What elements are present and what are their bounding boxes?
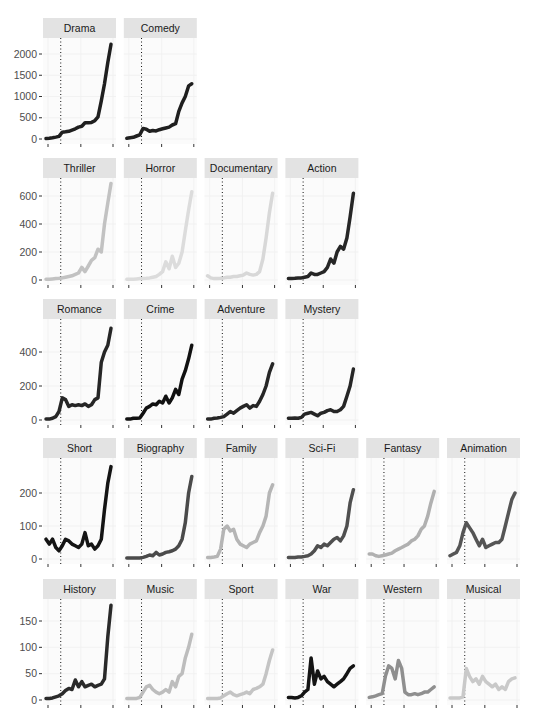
facet-strip-label: Animation bbox=[460, 442, 507, 454]
panel-background bbox=[285, 599, 358, 705]
facet-strip-label: Mystery bbox=[304, 303, 342, 315]
y-tick-0: 0 bbox=[31, 133, 42, 145]
facet-strip-label: Adventure bbox=[217, 303, 265, 315]
y-tick-label: 1500 bbox=[14, 69, 38, 81]
panel-background bbox=[285, 319, 358, 425]
facet-panel-fantasy: Fantasy bbox=[366, 438, 439, 567]
facet-strip-label: Western bbox=[383, 583, 422, 595]
facet-panel-crime: Crime bbox=[124, 299, 197, 428]
y-tick-1000: 1000 bbox=[14, 90, 42, 102]
y-tick-100: 100 bbox=[19, 520, 42, 532]
faceted-line-chart: 0500100015002000DramaComedy0200400600Thr… bbox=[0, 0, 538, 722]
facet-strip-label: Family bbox=[226, 442, 258, 454]
y-tick-100: 100 bbox=[19, 641, 42, 653]
y-tick-label: 50 bbox=[25, 667, 37, 679]
y-tick-200: 200 bbox=[19, 246, 42, 258]
y-tick-0: 0 bbox=[31, 414, 42, 426]
y-tick-200: 200 bbox=[19, 487, 42, 499]
y-tick-400: 400 bbox=[19, 346, 42, 358]
facet-strip-label: Romance bbox=[57, 303, 102, 315]
facet-strip-label: Drama bbox=[64, 22, 96, 34]
y-tick-0: 0 bbox=[31, 694, 42, 706]
facet-strip-label: Crime bbox=[146, 303, 174, 315]
facet-strip-label: Fantasy bbox=[384, 442, 422, 454]
facet-panel-romance: Romance bbox=[43, 299, 116, 428]
facet-panel-sport: Sport bbox=[205, 579, 278, 708]
facet-panel-documentary: Documentary bbox=[205, 158, 278, 288]
facet-strip-label: Short bbox=[67, 442, 92, 454]
facet-panel-family: Family bbox=[205, 438, 278, 567]
facet-panel-western: Western bbox=[366, 579, 439, 708]
y-tick-150: 150 bbox=[19, 615, 42, 627]
y-tick-label: 200 bbox=[19, 246, 37, 258]
panel-background bbox=[43, 319, 116, 425]
y-tick-label: 100 bbox=[19, 520, 37, 532]
y-tick-label: 100 bbox=[19, 641, 37, 653]
facet-panel-comedy: Comedy bbox=[124, 18, 197, 147]
facet-strip-label: War bbox=[312, 583, 331, 595]
y-tick-label: 600 bbox=[19, 190, 37, 202]
y-tick-label: 0 bbox=[31, 274, 37, 286]
facet-panel-thriller: Thriller bbox=[43, 158, 116, 288]
facet-strip-label: Horror bbox=[145, 162, 175, 174]
facet-strip-label: History bbox=[63, 583, 96, 595]
facet-panel-animation: Animation bbox=[447, 438, 520, 567]
facet-strip-label: Musical bbox=[466, 583, 502, 595]
facet-strip-label: Documentary bbox=[210, 162, 273, 174]
y-tick-label: 0 bbox=[31, 414, 37, 426]
facet-panel-scifi: Sci-Fi bbox=[285, 438, 358, 567]
y-tick-600: 600 bbox=[19, 190, 42, 202]
facet-strip-label: Action bbox=[307, 162, 336, 174]
facet-panel-musical: Musical bbox=[447, 579, 520, 708]
facet-strip-label: Comedy bbox=[141, 22, 181, 34]
y-tick-label: 400 bbox=[19, 346, 37, 358]
facet-panel-action: Action bbox=[285, 158, 358, 288]
y-tick-label: 0 bbox=[31, 133, 37, 145]
y-tick-label: 200 bbox=[19, 380, 37, 392]
y-tick-50: 50 bbox=[25, 667, 42, 679]
y-tick-2000: 2000 bbox=[14, 48, 42, 60]
panel-background bbox=[366, 599, 439, 705]
y-tick-label: 0 bbox=[31, 553, 37, 565]
facet-panel-short: Short bbox=[43, 438, 116, 567]
y-tick-label: 150 bbox=[19, 615, 37, 627]
y-tick-label: 2000 bbox=[14, 48, 38, 60]
y-tick-label: 0 bbox=[31, 694, 37, 706]
y-tick-400: 400 bbox=[19, 218, 42, 230]
panel-background bbox=[447, 599, 520, 705]
facet-panel-war: War bbox=[285, 579, 358, 708]
y-tick-200: 200 bbox=[19, 380, 42, 392]
y-tick-label: 200 bbox=[19, 487, 37, 499]
facet-panel-music: Music bbox=[124, 579, 197, 708]
y-tick-0: 0 bbox=[31, 553, 42, 565]
y-tick-500: 500 bbox=[19, 111, 42, 123]
facet-strip-label: Thriller bbox=[63, 162, 96, 174]
y-tick-1500: 1500 bbox=[14, 69, 42, 81]
panel-background bbox=[205, 599, 278, 705]
facet-panel-drama: Drama bbox=[43, 18, 116, 147]
facet-strip-label: Sci-Fi bbox=[308, 442, 335, 454]
y-tick-label: 1000 bbox=[14, 90, 38, 102]
facet-panel-history: History bbox=[43, 579, 116, 708]
facet-strip-label: Sport bbox=[229, 583, 254, 595]
facet-panel-adventure: Adventure bbox=[205, 299, 278, 428]
y-tick-0: 0 bbox=[31, 274, 42, 286]
facet-strip-label: Music bbox=[147, 583, 174, 595]
y-tick-label: 500 bbox=[19, 111, 37, 123]
facet-panel-biography: Biography bbox=[124, 438, 197, 567]
facet-panel-horror: Horror bbox=[124, 158, 197, 288]
y-tick-label: 400 bbox=[19, 218, 37, 230]
facet-strip-label: Biography bbox=[137, 442, 185, 454]
facet-panel-mystery: Mystery bbox=[285, 299, 358, 428]
